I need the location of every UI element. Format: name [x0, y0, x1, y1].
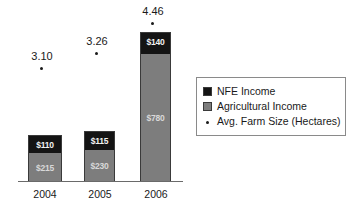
legend-item-avg-farm-size[interactable]: Avg. Farm Size (Hectares): [203, 114, 339, 128]
bar-label-agricultural-2004: $215: [29, 163, 61, 173]
bar-label-nfe-2005: $115: [85, 136, 114, 146]
bar-label-nfe-2004: $110: [29, 140, 61, 150]
marker-dot-2005: [95, 52, 98, 55]
x-tick-label-2004: 2004: [25, 188, 65, 200]
x-axis-line: [18, 181, 183, 182]
plot-area: 3.10 3.26 4.46 $110 $215 $115 $230: [0, 0, 190, 218]
legend-label-avg-farm-size: Avg. Farm Size (Hectares): [217, 116, 341, 127]
bar-2004[interactable]: $110 $215: [28, 135, 62, 181]
x-tick-label-2005: 2005: [80, 188, 120, 200]
bar-2005[interactable]: $115 $230: [84, 131, 115, 181]
legend-item-agricultural-income[interactable]: Agricultural Income: [203, 99, 339, 113]
marker-dot-2006: [151, 22, 154, 25]
bar-segment-nfe-2006: $140: [141, 33, 170, 54]
bar-segment-agricultural-2004: $215: [29, 153, 61, 182]
bar-segment-nfe-2005: $115: [85, 132, 114, 150]
gray-square-swatch-icon: [203, 102, 212, 111]
x-tick-label-2006: 2006: [136, 188, 176, 200]
marker-value-2005: 3.26: [77, 35, 117, 47]
bar-label-nfe-2006: $140: [141, 37, 170, 47]
legend-label-agricultural-income: Agricultural Income: [217, 101, 307, 112]
black-square-swatch-icon: [203, 87, 212, 96]
legend-item-nfe-income[interactable]: NFE Income: [203, 84, 339, 98]
bar-label-agricultural-2006: $780: [141, 113, 170, 123]
marker-value-2006: 4.46: [133, 5, 173, 17]
bar-segment-agricultural-2006: $780: [141, 54, 170, 182]
marker-dot-2004: [40, 67, 43, 70]
chart-screenshot: 3.10 3.26 4.46 $110 $215 $115 $230: [0, 0, 358, 218]
marker-value-2004: 3.10: [22, 50, 62, 62]
bar-2006[interactable]: $140 $780: [140, 32, 171, 181]
bar-segment-agricultural-2005: $230: [85, 150, 114, 182]
bar-segment-nfe-2004: $110: [29, 136, 61, 153]
bar-label-agricultural-2005: $230: [85, 161, 114, 171]
legend-label-nfe-income: NFE Income: [217, 86, 275, 97]
dot-marker-icon: [203, 117, 212, 126]
chart-legend: NFE Income Agricultural Income Avg. Farm…: [196, 77, 346, 136]
